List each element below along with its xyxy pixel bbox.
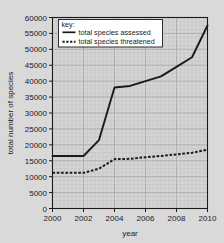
y-tick-label: 5000 [29, 189, 47, 198]
legend-label-1: total species assessed [79, 28, 151, 37]
y-tick-label: 0 [43, 205, 48, 214]
y-tick-label: 25000 [25, 125, 48, 134]
y-tick-label: 45000 [25, 61, 48, 70]
y-tick-label: 60000 [25, 14, 48, 23]
y-tick-label: 20000 [25, 141, 48, 150]
chart-legend: key:total species assessedtotal species … [59, 20, 163, 48]
x-tick-label: 2004 [106, 214, 124, 223]
x-tick-label: 2006 [137, 214, 155, 223]
y-tick-label: 30000 [25, 109, 48, 118]
y-tick-label: 15000 [25, 157, 48, 166]
legend-title: key: [62, 20, 75, 29]
x-tick-label: 2010 [199, 214, 217, 223]
x-tick-label: 2000 [44, 214, 62, 223]
line-chart: 200020022004200620082010 050001000015000… [0, 0, 224, 243]
y-tick-label: 10000 [25, 173, 48, 182]
y-tick-label: 50000 [25, 45, 48, 54]
legend-label-2: total species threatened [79, 37, 155, 46]
y-tick-label: 40000 [25, 77, 48, 86]
x-tick-label: 2008 [168, 214, 186, 223]
chart-container: 200020022004200620082010 050001000015000… [0, 0, 224, 243]
x-axis-title: year [122, 229, 138, 238]
x-tick-label: 2002 [75, 214, 93, 223]
y-axis-title: total number of species [6, 72, 15, 155]
y-tick-label: 35000 [25, 93, 48, 102]
y-tick-label: 55000 [25, 29, 48, 38]
